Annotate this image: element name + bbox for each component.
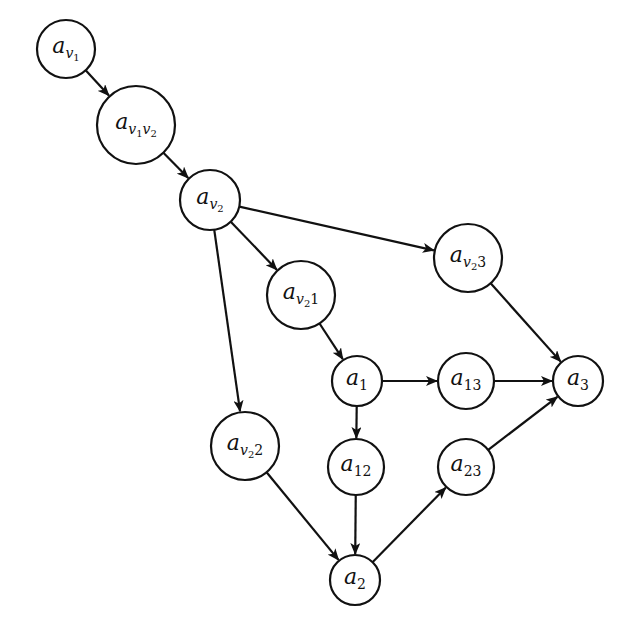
node-av23: av23 <box>434 224 502 292</box>
edge-av21-to-a1 <box>320 323 343 359</box>
edge-a23-to-a3 <box>488 397 557 450</box>
node-av1: av1 <box>37 20 95 78</box>
edge-a12-to-a2 <box>355 495 356 554</box>
node-a3: a3 <box>553 356 603 406</box>
node-av22: av22 <box>211 412 279 480</box>
edge-av1v2-to-av2 <box>163 153 188 178</box>
edge-av23-to-a3 <box>491 283 561 361</box>
directed-graph: av1av1v2av2av23av21a1a13a3av22a12a23a2 <box>0 0 634 633</box>
node-av2: av2 <box>180 170 240 230</box>
node-a13: a13 <box>438 353 494 409</box>
edge-av2-to-av21 <box>231 222 277 270</box>
node-av21: av21 <box>267 261 335 329</box>
edge-av1-to-av1v2 <box>86 70 109 95</box>
edge-av2-to-av23 <box>239 207 434 251</box>
node-a23: a23 <box>438 439 494 495</box>
node-av1v2: av1v2 <box>97 86 175 164</box>
edge-a2-to-a23 <box>373 488 446 562</box>
edge-av2-to-av22 <box>214 230 240 412</box>
node-a12: a12 <box>328 439 384 495</box>
node-a2: a2 <box>330 555 380 605</box>
edge-av22-to-a2 <box>267 472 339 560</box>
node-a1: a1 <box>332 356 382 406</box>
